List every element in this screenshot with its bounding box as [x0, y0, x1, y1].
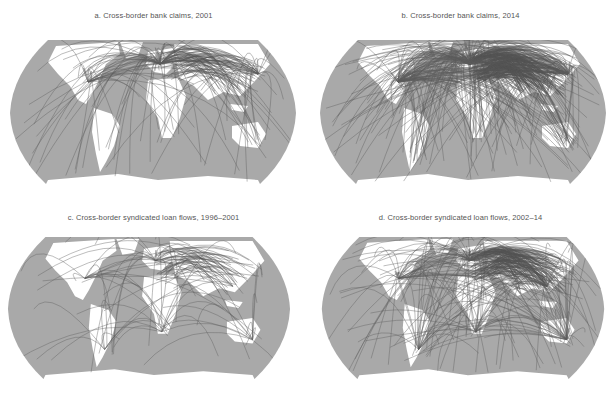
figure-header-cropped — [0, 0, 260, 3]
world-map-b — [318, 34, 608, 192]
panel-title-b: b. Cross-border bank claims, 2014 — [307, 11, 614, 20]
world-map-a — [8, 34, 298, 192]
panel-title-d: d. Cross-border syndicated loan flows, 2… — [307, 213, 614, 222]
panel-title-a: a. Cross-border bank claims, 2001 — [0, 11, 307, 20]
panel-title-c: c. Cross-border syndicated loan flows, 1… — [0, 213, 307, 222]
world-map-c — [6, 231, 292, 387]
world-map-d — [318, 231, 608, 387]
